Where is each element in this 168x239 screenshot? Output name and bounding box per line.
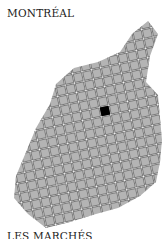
grid-cell[interactable] — [36, 129, 46, 139]
grid-cell[interactable] — [123, 121, 133, 131]
grid-cell[interactable] — [26, 82, 36, 92]
grid-cell[interactable] — [158, 192, 168, 202]
grid-cell[interactable] — [140, 19, 150, 29]
grid-cell[interactable] — [97, 136, 107, 146]
grid-cell[interactable] — [132, 70, 142, 80]
grid-cell[interactable] — [117, 230, 127, 239]
grid-cell[interactable] — [112, 25, 122, 35]
grid-cell[interactable] — [89, 148, 99, 158]
grid-cell[interactable] — [6, 77, 16, 87]
grid-cell[interactable] — [150, 203, 160, 213]
grid-cell[interactable] — [49, 97, 59, 107]
grid-cell[interactable] — [130, 109, 140, 119]
grid-cell[interactable] — [10, 7, 20, 17]
grid-cell[interactable] — [52, 205, 62, 215]
grid-cell[interactable] — [12, 154, 22, 164]
grid-cell[interactable] — [156, 45, 166, 55]
grid-cell[interactable] — [99, 57, 109, 67]
grid-cell[interactable] — [28, 92, 38, 102]
grid-cell[interactable] — [135, 177, 145, 187]
grid-cell[interactable] — [158, 54, 168, 64]
grid-cell[interactable] — [95, 127, 105, 137]
grid-cell[interactable] — [0, 119, 5, 129]
grid-cell[interactable] — [114, 34, 124, 44]
grid-cell[interactable] — [94, 215, 104, 225]
grid-cell[interactable] — [37, 178, 47, 188]
grid-cell[interactable] — [0, 216, 6, 226]
grid-cell[interactable] — [44, 118, 54, 128]
grid-cell[interactable] — [58, 46, 68, 56]
grid-cell[interactable] — [50, 58, 60, 68]
grid-cell[interactable] — [12, 17, 22, 27]
grid-cell[interactable] — [60, 193, 70, 203]
grid-cell[interactable] — [69, 54, 79, 64]
grid-cell[interactable] — [60, 105, 70, 115]
grid-cell[interactable] — [39, 188, 49, 198]
grid-cell[interactable] — [3, 205, 13, 215]
grid-cell[interactable] — [127, 140, 137, 150]
grid-cell[interactable] — [142, 117, 152, 127]
grid-cell[interactable] — [97, 48, 107, 58]
grid-cell[interactable] — [16, 35, 26, 45]
grid-cell[interactable] — [138, 10, 148, 20]
grid-cell[interactable] — [6, 126, 16, 136]
grid-cell[interactable] — [135, 40, 145, 50]
grid-cell[interactable] — [140, 107, 150, 117]
grid-cell[interactable] — [108, 6, 118, 16]
grid-cell[interactable] — [59, 144, 69, 154]
grid-cell[interactable] — [84, 217, 94, 227]
grid-cell[interactable] — [0, 149, 1, 159]
grid-cell[interactable] — [29, 3, 39, 13]
grid-cell[interactable] — [131, 158, 141, 168]
grid-cell[interactable] — [65, 35, 75, 45]
grid-cell[interactable] — [8, 0, 18, 8]
grid-cell[interactable] — [70, 152, 80, 162]
grid-cell[interactable] — [154, 36, 164, 46]
grid-cell[interactable] — [141, 68, 151, 78]
grid-cell[interactable] — [127, 189, 137, 199]
grid-cell[interactable] — [154, 173, 164, 183]
grid-cell[interactable] — [51, 107, 61, 117]
grid-cell[interactable] — [103, 213, 113, 223]
grid-cell[interactable] — [124, 81, 134, 91]
grid-cell[interactable] — [65, 172, 75, 182]
grid-cell[interactable] — [91, 108, 101, 118]
grid-cell[interactable] — [164, 220, 168, 230]
grid-cell[interactable] — [42, 109, 52, 119]
grid-cell[interactable] — [54, 214, 64, 224]
grid-cell[interactable] — [111, 202, 121, 212]
grid-cell[interactable] — [109, 193, 119, 203]
grid-cell[interactable] — [148, 8, 158, 18]
grid-cell[interactable] — [29, 190, 39, 200]
grid-cell[interactable] — [128, 237, 138, 239]
grid-cell[interactable] — [4, 117, 14, 127]
grid-cell[interactable] — [23, 113, 33, 123]
grid-cell[interactable] — [144, 38, 154, 48]
grid-cell[interactable] — [160, 113, 168, 123]
grid-cell[interactable] — [41, 60, 51, 70]
grid-cell[interactable] — [107, 95, 117, 105]
grid-cell[interactable] — [14, 164, 24, 174]
grid-cell[interactable] — [133, 30, 143, 40]
grid-cell[interactable] — [106, 0, 116, 7]
grid-cell[interactable] — [131, 21, 141, 31]
grid-cell[interactable] — [164, 83, 168, 93]
grid-cell[interactable] — [0, 207, 4, 217]
grid-cell[interactable] — [59, 7, 69, 17]
grid-cell[interactable] — [24, 73, 34, 83]
grid-cell[interactable] — [147, 233, 157, 239]
grid-cell[interactable] — [93, 29, 103, 39]
grid-cell[interactable] — [158, 103, 168, 113]
grid-cell[interactable] — [152, 26, 162, 36]
grid-cell[interactable] — [154, 85, 164, 95]
grid-cell[interactable] — [159, 15, 168, 25]
grid-cell[interactable] — [94, 78, 104, 88]
grid-cell[interactable] — [113, 211, 123, 221]
grid-cell[interactable] — [101, 66, 111, 76]
grid-cell[interactable] — [48, 0, 58, 9]
grid-cell[interactable] — [105, 85, 115, 95]
grid-cell[interactable] — [63, 163, 73, 173]
grid-cell[interactable] — [152, 164, 162, 174]
grid-cell[interactable] — [15, 212, 25, 222]
grid-cell[interactable] — [22, 64, 32, 74]
